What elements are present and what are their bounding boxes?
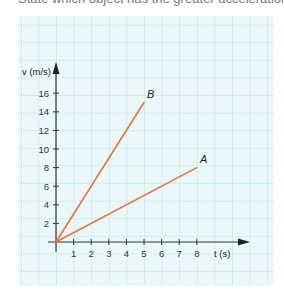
y-tick-label: 4 <box>44 199 49 210</box>
x-tick-label: 5 <box>141 248 146 259</box>
y-tick-label: 14 <box>38 106 49 117</box>
x-tick-label: 6 <box>159 248 164 259</box>
x-axis-title: t (s) <box>214 248 230 259</box>
y-tick-label: 6 <box>44 181 49 192</box>
x-tick-label: 4 <box>124 248 129 259</box>
x-tick-label: 8 <box>194 248 199 259</box>
x-tick-label: 1 <box>71 248 76 259</box>
x-tick-label: 2 <box>89 248 94 259</box>
velocity-time-graph: 2 4 6 8 10 12 14 16 1 2 3 4 5 6 7 <box>18 16 274 286</box>
y-tick-label: 12 <box>38 125 49 136</box>
clipped-question-text: State which object has the greater accel… <box>18 0 284 6</box>
y-tick-label: 8 <box>44 162 49 173</box>
y-axis-title: v (m/s) <box>22 66 51 77</box>
series-label-a: A <box>199 153 207 165</box>
y-tick-label: 10 <box>38 144 49 155</box>
series-label-b: B <box>147 88 154 100</box>
x-tick-label: 7 <box>177 248 182 259</box>
x-tick-label: 3 <box>106 248 111 259</box>
y-tick-label: 16 <box>38 88 49 99</box>
y-tick-label: 2 <box>44 218 49 229</box>
